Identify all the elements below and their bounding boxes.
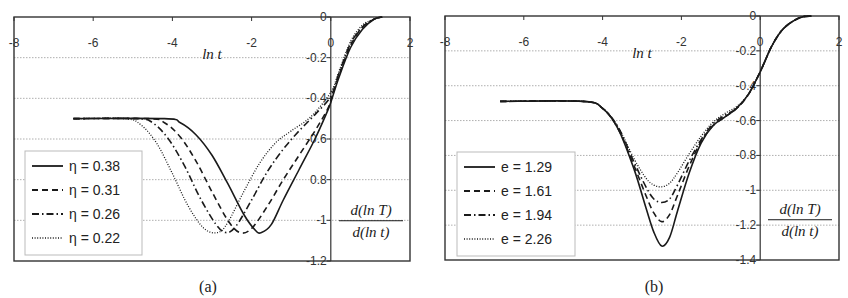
y-tick-label: -0.4	[306, 91, 327, 105]
x-tick-label: -4	[597, 35, 608, 49]
y-tick-label: -0.6	[736, 114, 757, 128]
legend-label: η = 0.22	[69, 230, 120, 246]
x-axis-label: ln t	[632, 45, 652, 61]
x-tick-label: -6	[88, 36, 99, 50]
y-label-denominator: d(ln t)	[781, 223, 818, 240]
y-tick-label: -0.2	[306, 51, 327, 65]
y-tick-label: -1.4	[736, 253, 757, 267]
chart-panel-a: -8-6-4-202 0-0.2-0.4-0.60.8-1-1.2 ln t d…	[9, 10, 414, 296]
y-tick-label: -0.2	[736, 44, 757, 58]
legend-label: η = 0.31	[69, 182, 120, 198]
y-label-numerator: d(ln T)	[350, 202, 391, 219]
x-tick-label: 0	[327, 36, 334, 50]
legend-label: e = 1.61	[501, 183, 552, 199]
legend-label: e = 1.94	[501, 207, 552, 223]
y-tick-label: -1.2	[306, 254, 327, 268]
y-axis-label: d(ln T) d(ln t)	[768, 201, 832, 240]
y-tick-label: 0	[750, 9, 757, 23]
y-label-numerator: d(ln T)	[779, 201, 820, 218]
y-tick-label: -1.2	[736, 218, 757, 232]
y-axis-label: d(ln T) d(ln t)	[339, 202, 403, 241]
panel-caption: (a)	[199, 278, 217, 296]
y-tick-label: -1	[316, 213, 327, 227]
x-tick-label: -2	[676, 35, 687, 49]
legend-label: e = 1.29	[501, 159, 552, 175]
legend-label: e = 2.26	[501, 231, 552, 247]
x-axis-label: ln t	[202, 46, 222, 62]
chart-panel-b: -8-6-4-202 0-0.2-0.4-0.6-0.8-1-1.2-1.4 l…	[440, 9, 843, 296]
y-tick-label: 0.8	[310, 173, 327, 187]
y-tick-label: -0.8	[736, 148, 757, 162]
x-tick-label: -8	[440, 35, 451, 49]
x-tick-label: 2	[836, 35, 843, 49]
legend: η = 0.38η = 0.31η = 0.26η = 0.22	[25, 151, 142, 255]
x-tick-label: -2	[246, 36, 257, 50]
legend: e = 1.29e = 1.61e = 1.94e = 2.26	[457, 152, 575, 256]
x-tick-label: 2	[407, 36, 414, 50]
y-label-denominator: d(ln t)	[352, 224, 389, 241]
y-tick-label: -1	[746, 183, 757, 197]
legend-label: η = 0.38	[69, 158, 120, 174]
x-tick-label: -6	[518, 35, 529, 49]
y-tick-label: 0	[320, 10, 327, 24]
figure: -8-6-4-202 0-0.2-0.4-0.60.8-1-1.2 ln t d…	[0, 0, 848, 298]
x-tick-label: -4	[167, 36, 178, 50]
x-tick-label: 0	[757, 35, 764, 49]
x-tick-label: -8	[9, 36, 20, 50]
panel-caption: (b)	[645, 278, 664, 296]
legend-label: η = 0.26	[69, 206, 120, 222]
